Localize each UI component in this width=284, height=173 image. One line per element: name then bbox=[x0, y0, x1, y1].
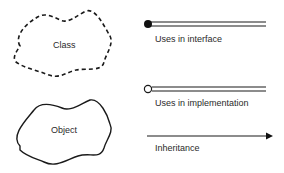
object-label: Object bbox=[51, 125, 78, 135]
legend-inheritance: Inheritance bbox=[147, 133, 273, 154]
legend-uses-implementation: Uses in implementation bbox=[144, 85, 266, 108]
object-shape: Object bbox=[17, 100, 111, 164]
class-label: Class bbox=[53, 40, 76, 50]
class-shape: Class bbox=[14, 11, 111, 77]
filled-circle-icon bbox=[144, 20, 152, 28]
open-circle-icon bbox=[144, 85, 151, 92]
uses-interface-label: Uses in interface bbox=[155, 34, 222, 44]
diagram-canvas: Class Object Uses in interface Uses in i… bbox=[0, 0, 284, 173]
inheritance-label: Inheritance bbox=[155, 143, 200, 153]
arrowhead-icon bbox=[266, 133, 273, 140]
legend-uses-interface: Uses in interface bbox=[144, 20, 266, 44]
uses-implementation-label: Uses in implementation bbox=[155, 98, 249, 108]
